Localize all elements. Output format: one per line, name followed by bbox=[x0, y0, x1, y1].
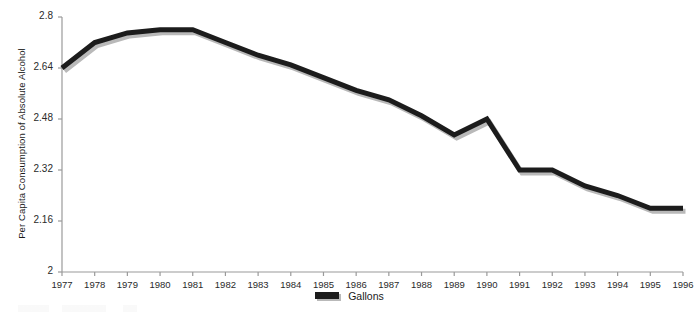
y-axis-tick-label: 2.8 bbox=[0, 10, 53, 21]
series-gallons-shadow bbox=[65, 33, 686, 212]
chart-container: Per Capita Consumption of Absolute Alcoh… bbox=[0, 0, 699, 314]
series-gallons-line bbox=[62, 30, 683, 209]
y-axis-tick-label: 2.64 bbox=[0, 61, 53, 72]
series-shadow-path bbox=[65, 33, 686, 212]
legend-swatch-gallons bbox=[315, 292, 341, 301]
legend-label-gallons: Gallons bbox=[348, 290, 384, 302]
y-axis-tick-label: 2.32 bbox=[0, 163, 53, 174]
x-axis-tick-label: 1996 bbox=[663, 279, 699, 290]
legend-swatch-fill bbox=[315, 292, 339, 299]
series-gallons-path bbox=[62, 30, 683, 209]
page-edge-artifact bbox=[18, 305, 188, 312]
y-axis-tick-label: 2.16 bbox=[0, 214, 53, 225]
line-chart-plot bbox=[0, 0, 699, 314]
y-axis-tick-label: 2 bbox=[0, 265, 53, 276]
axis-lines bbox=[62, 17, 683, 272]
y-axis-tick-label: 2.48 bbox=[0, 112, 53, 123]
chart-legend: Gallons bbox=[0, 290, 699, 302]
